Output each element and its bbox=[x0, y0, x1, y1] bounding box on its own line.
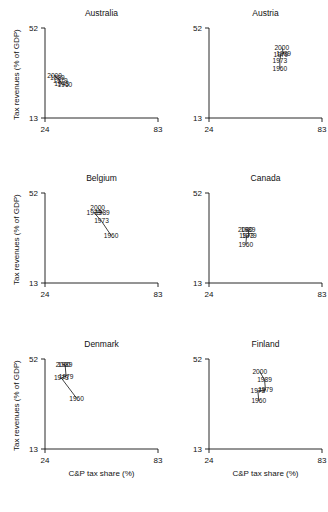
x-tick-label: 24 bbox=[205, 125, 214, 134]
y-axis-label: Tax revenues (% of GDP) bbox=[12, 194, 21, 285]
data-point-label: 1989 bbox=[257, 376, 272, 383]
data-point-label: 1973 bbox=[273, 57, 288, 64]
x-tick-label: 24 bbox=[205, 290, 214, 299]
x-tick-label: 83 bbox=[318, 290, 327, 299]
data-point-label: 1960 bbox=[104, 232, 119, 239]
x-tick-label: 83 bbox=[318, 125, 327, 134]
panel-finland: Finland1352248320001989197919731960C&P t… bbox=[164, 331, 328, 501]
y-tick-label: 13 bbox=[29, 445, 38, 454]
y-tick-label: 52 bbox=[193, 24, 202, 33]
series-line bbox=[61, 365, 76, 398]
data-point-label: 1973 bbox=[239, 232, 254, 239]
data-point-label: 1960 bbox=[238, 241, 253, 248]
y-tick-label: 52 bbox=[193, 355, 202, 364]
y-tick-label: 52 bbox=[29, 189, 38, 198]
y-axis-label: Tax revenues (% of GDP) bbox=[12, 29, 21, 120]
data-point-label: 1960 bbox=[58, 81, 73, 88]
plot-area: 1352248320001989197919731960 bbox=[164, 0, 328, 170]
panel-denmark: Denmark1352248320001989197919731960Tax r… bbox=[0, 331, 164, 501]
x-tick-label: 83 bbox=[154, 125, 163, 134]
y-tick-label: 13 bbox=[193, 279, 202, 288]
y-tick-label: 52 bbox=[29, 24, 38, 33]
y-tick-label: 13 bbox=[29, 279, 38, 288]
x-axis-label: C&P tax share (%) bbox=[45, 469, 158, 478]
plot-area: 1352248320001989197919731960 bbox=[0, 0, 164, 170]
y-tick-label: 52 bbox=[193, 189, 202, 198]
x-tick-label: 83 bbox=[318, 456, 327, 465]
data-point-label: 1989 bbox=[58, 361, 73, 368]
plot-area: 1352248320001989197919731960 bbox=[0, 165, 164, 335]
y-axis-label: Tax revenues (% of GDP) bbox=[12, 360, 21, 451]
plot-area: 1352248320001989197919731960 bbox=[164, 165, 328, 335]
y-tick-label: 52 bbox=[29, 355, 38, 364]
data-point-label: 1960 bbox=[69, 395, 84, 402]
data-point-label: 1973 bbox=[54, 374, 69, 381]
x-tick-label: 83 bbox=[154, 290, 163, 299]
data-point-label: 1979 bbox=[87, 209, 102, 216]
data-point-label: 1960 bbox=[273, 65, 288, 72]
y-tick-label: 13 bbox=[193, 445, 202, 454]
data-point-label: 1973 bbox=[94, 217, 109, 224]
x-tick-label: 83 bbox=[154, 456, 163, 465]
x-axis-label: C&P tax share (%) bbox=[209, 469, 322, 478]
data-point-label: 2000 bbox=[252, 368, 267, 375]
panel-australia: Australia1352248320001989197919731960Tax… bbox=[0, 0, 164, 170]
data-point-label: 1960 bbox=[251, 397, 266, 404]
x-tick-label: 24 bbox=[41, 290, 50, 299]
x-tick-label: 24 bbox=[205, 456, 214, 465]
x-tick-label: 24 bbox=[41, 125, 50, 134]
data-point-label: 1973 bbox=[251, 387, 266, 394]
panel-austria: Austria1352248320001989197919731960 bbox=[164, 0, 328, 170]
panel-belgium: Belgium1352248320001989197919731960Tax r… bbox=[0, 165, 164, 335]
panel-canada: Canada1352248320001989197919731960 bbox=[164, 165, 328, 335]
x-tick-label: 24 bbox=[41, 456, 50, 465]
figure-root: Australia1352248320001989197919731960Tax… bbox=[0, 0, 328, 512]
y-tick-label: 13 bbox=[29, 114, 38, 123]
y-tick-label: 13 bbox=[193, 114, 202, 123]
